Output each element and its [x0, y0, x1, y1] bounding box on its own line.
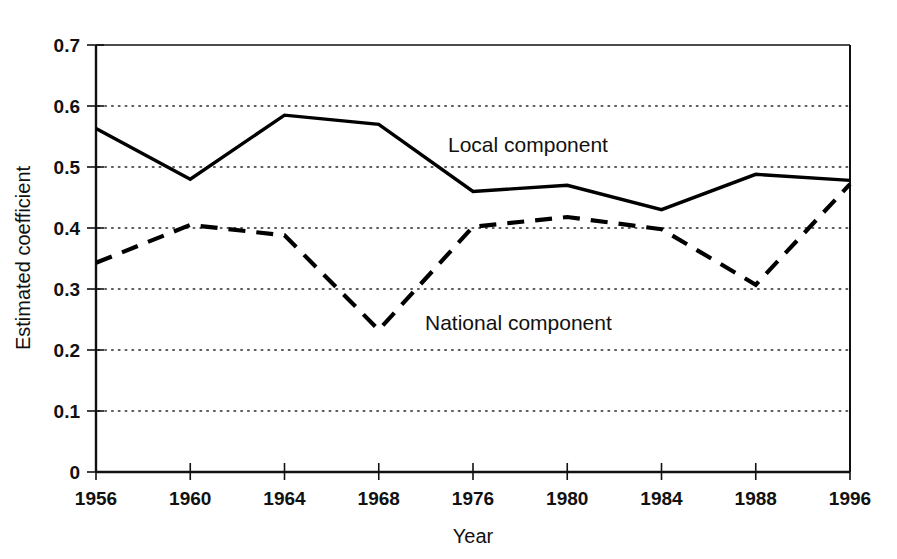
y-tick-label: 0.5: [54, 157, 81, 178]
line-chart: 00.10.20.30.40.50.60.7 19561960196419681…: [0, 0, 897, 559]
x-axis-title: Year: [453, 525, 494, 547]
series-line-national: [96, 184, 850, 330]
series-annotations: Local componentNational component: [425, 133, 612, 334]
y-axis-title: Estimated coefficient: [12, 165, 34, 350]
y-tick-label: 0.4: [54, 218, 81, 239]
x-tick-label: 1980: [546, 488, 588, 509]
y-tick-label: 0.7: [54, 35, 80, 56]
x-tick-label: 1968: [358, 488, 400, 509]
plot-frame: [96, 45, 850, 472]
x-tick-label: 1976: [452, 488, 494, 509]
x-tick-label: 1964: [263, 488, 306, 509]
y-tick-label: 0: [69, 462, 80, 483]
y-tick-label: 0.3: [54, 279, 80, 300]
x-axis-ticks: 195619601964196819761980198419881996: [75, 45, 871, 509]
x-tick-label: 1956: [75, 488, 117, 509]
y-tick-label: 0.2: [54, 340, 80, 361]
y-tick-label: 0.6: [54, 96, 80, 117]
x-tick-label: 1960: [169, 488, 211, 509]
x-tick-label: 1988: [735, 488, 777, 509]
annotation-national-component: National component: [425, 311, 612, 334]
chart-figure: 00.10.20.30.40.50.60.7 19561960196419681…: [0, 0, 897, 559]
annotation-local-component: Local component: [448, 133, 608, 156]
x-tick-label: 1996: [829, 488, 871, 509]
y-tick-label: 0.1: [54, 401, 81, 422]
x-tick-label: 1984: [640, 488, 683, 509]
series-line-local: [96, 115, 850, 210]
